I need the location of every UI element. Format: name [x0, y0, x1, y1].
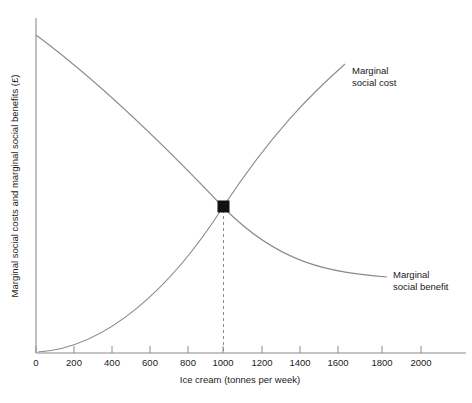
x-tick-label-1200: 1200 — [251, 357, 272, 368]
x-tick-label-1400: 1400 — [289, 357, 310, 368]
x-axis-ticks — [36, 346, 421, 353]
x-tick-label-200: 200 — [66, 357, 82, 368]
x-tick-label-1000: 1000 — [212, 357, 233, 368]
msc-label-line1: Marginal — [352, 65, 388, 76]
x-tick-label-0: 0 — [33, 357, 38, 368]
x-tick-label-1600: 1600 — [327, 357, 348, 368]
x-tick-label-400: 400 — [104, 357, 120, 368]
msb-label-line2: social benefit — [393, 281, 449, 292]
equilibrium-marker — [218, 201, 230, 213]
x-tick-label-800: 800 — [180, 357, 196, 368]
msc-label-line2: social cost — [352, 77, 397, 88]
curve-marginal-social-benefit — [36, 35, 387, 277]
x-tick-label-600: 600 — [142, 357, 158, 368]
label-marginal-social-cost: Marginal social cost — [352, 65, 397, 88]
x-tick-label-2000: 2000 — [410, 357, 431, 368]
chart-figure: 0 200 400 600 800 1000 1200 1400 1600 18… — [0, 0, 472, 403]
x-tick-label-1800: 1800 — [371, 357, 392, 368]
label-marginal-social-benefit: Marginal social benefit — [393, 269, 449, 292]
y-axis-title: Marginal social costs and marginal socia… — [9, 75, 20, 298]
curve-marginal-social-cost — [38, 64, 345, 352]
x-axis-title: Ice cream (tonnes per week) — [180, 374, 300, 385]
chart-svg: 0 200 400 600 800 1000 1200 1400 1600 18… — [0, 0, 472, 403]
msb-label-line1: Marginal — [393, 269, 429, 280]
